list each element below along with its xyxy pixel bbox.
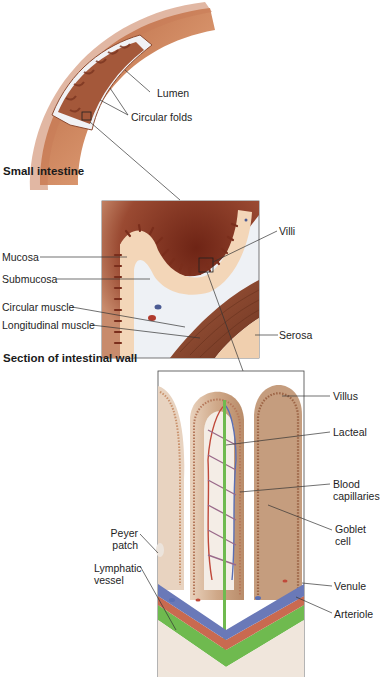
label-blood-capillaries-2: capillaries [333,490,380,502]
label-circular-folds: Circular folds [131,111,192,123]
label-villus: Villus [333,390,358,402]
label-lumen: Lumen [157,87,189,99]
title-small-intestine: Small intestine [3,165,84,177]
label-blood-capillaries-1: Blood [333,478,360,490]
label-circular-muscle: Circular muscle [2,301,74,313]
label-lymphatic-vessel-2: vessel [94,574,124,586]
villus-detail [156,371,304,677]
anatomy-illustration [0,0,382,677]
label-lymphatic-vessel-1: Lymphatic [94,562,141,574]
label-arteriole: Arteriole [334,608,373,620]
label-longitudinal-muscle: Longitudinal muscle [2,319,95,331]
title-section-intestinal-wall: Section of intestinal wall [3,352,137,364]
label-mucosa: Mucosa [2,251,39,263]
label-peyer-patch-2: patch [108,539,138,551]
intestinal-wall-section [102,201,259,358]
label-serosa: Serosa [279,329,312,341]
label-peyer-patch-1: Peyer [108,527,138,539]
label-villi: Villi [279,225,295,237]
label-submucosa: Submucosa [2,273,57,285]
label-goblet-cell-1: Goblet [335,523,366,535]
label-venule: Venule [334,580,366,592]
label-goblet-cell-2: cell [335,535,351,547]
label-lacteal: Lacteal [333,426,367,438]
